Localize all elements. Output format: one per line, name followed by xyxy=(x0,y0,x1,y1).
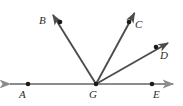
point-label-G: G xyxy=(89,89,97,100)
point-dot-C xyxy=(127,20,132,25)
point-dot-D xyxy=(154,45,159,50)
point-label-D: D xyxy=(160,50,168,61)
geometry-figure: A B C D E G xyxy=(0,0,183,106)
point-label-A: A xyxy=(19,89,26,100)
point-dot-B xyxy=(58,20,63,25)
point-label-C: C xyxy=(135,19,142,30)
ray-GB xyxy=(53,15,96,84)
point-label-B: B xyxy=(39,15,46,26)
point-label-E: E xyxy=(153,89,160,100)
point-dot-E xyxy=(150,82,155,87)
point-dot-G xyxy=(94,82,99,87)
point-dot-A xyxy=(26,82,31,87)
